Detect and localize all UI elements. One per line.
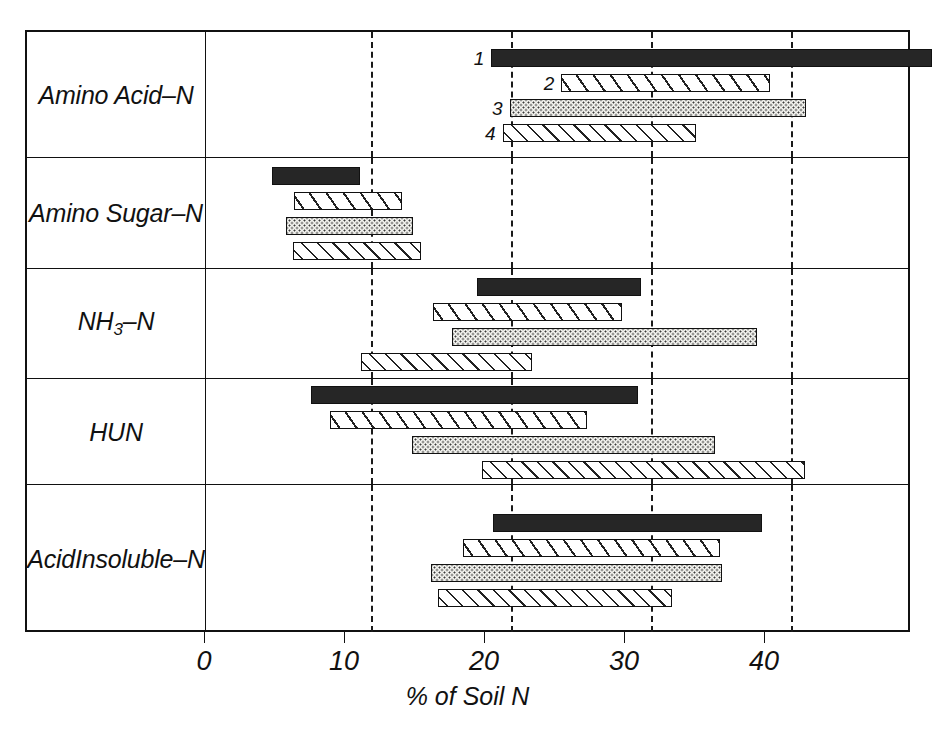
range-bar-series-3 xyxy=(431,564,722,582)
series-number-label-2: 2 xyxy=(544,73,562,95)
range-bar-series-1 xyxy=(477,278,641,296)
x-axis: 010203040 xyxy=(204,632,910,652)
gridline-20 xyxy=(511,485,513,632)
range-bar-series-1 xyxy=(311,386,639,404)
row-label-3: NH3–N xyxy=(27,269,206,378)
x-tick-20 xyxy=(484,632,485,643)
plot-area-3 xyxy=(206,269,908,378)
row-label-4: HUN xyxy=(27,379,206,484)
range-bar-series-3 xyxy=(452,328,757,346)
x-tick-40 xyxy=(764,632,765,643)
range-bar-series-4 xyxy=(438,589,672,607)
range-bar-series-3 xyxy=(510,99,807,117)
plot-area-4 xyxy=(206,379,908,484)
plot-area-1: 1234 xyxy=(206,32,908,157)
range-bar-series-3 xyxy=(286,217,413,235)
range-bar-series-1 xyxy=(272,167,360,185)
range-bar-series-4 xyxy=(361,353,532,371)
x-tick-10 xyxy=(344,632,345,643)
series-number-label-1: 1 xyxy=(474,48,492,70)
chart-frame: Amino Acid–N1234Amino Sugar–NNH3–NHUNAci… xyxy=(25,30,910,632)
gridline-40 xyxy=(791,485,793,632)
range-bar-series-2 xyxy=(561,74,770,92)
x-tick-label-40: 40 xyxy=(749,646,779,677)
figure-container: Amino Acid–N1234Amino Sugar–NNH3–NHUNAci… xyxy=(0,0,935,730)
series-number-label-3: 3 xyxy=(492,98,510,120)
gridline-30 xyxy=(651,485,653,632)
plot-area-5 xyxy=(206,485,908,632)
range-bar-series-2 xyxy=(330,411,586,429)
row-label-2: Amino Sugar–N xyxy=(27,158,206,268)
gridline-40 xyxy=(791,158,793,268)
x-axis-title: % of Soil N xyxy=(0,682,935,711)
gridline-30 xyxy=(651,158,653,268)
range-bar-series-4 xyxy=(482,461,805,479)
x-tick-30 xyxy=(624,632,625,643)
gridline-10 xyxy=(371,32,373,157)
x-tick-label-20: 20 xyxy=(469,646,499,677)
gridline-20 xyxy=(511,158,513,268)
gridline-40 xyxy=(791,269,793,378)
row-label-5: AcidInsoluble–N xyxy=(27,485,206,632)
x-tick-label-0: 0 xyxy=(196,646,211,677)
chart-row: HUN xyxy=(27,379,908,485)
range-bar-series-3 xyxy=(412,436,716,454)
plot-area-2 xyxy=(206,158,908,268)
chart-row: Amino Acid–N1234 xyxy=(27,32,908,158)
chart-row: Amino Sugar–N xyxy=(27,158,908,269)
range-bar-series-2 xyxy=(433,303,622,321)
range-bar-series-4 xyxy=(503,124,696,142)
x-tick-label-30: 30 xyxy=(609,646,639,677)
range-bar-series-2 xyxy=(294,192,402,210)
range-bar-series-4 xyxy=(293,242,422,260)
x-tick-0 xyxy=(204,632,205,643)
chart-row: AcidInsoluble–N xyxy=(27,485,908,632)
row-label-1: Amino Acid–N xyxy=(27,32,206,157)
range-bar-series-2 xyxy=(463,539,719,557)
series-number-label-4: 4 xyxy=(485,123,503,145)
gridline-30 xyxy=(651,269,653,378)
chart-row: NH3–N xyxy=(27,269,908,379)
range-bar-series-1 xyxy=(493,514,762,532)
range-bar-series-1 xyxy=(491,49,932,67)
gridline-10 xyxy=(371,485,373,632)
x-tick-label-10: 10 xyxy=(329,646,359,677)
